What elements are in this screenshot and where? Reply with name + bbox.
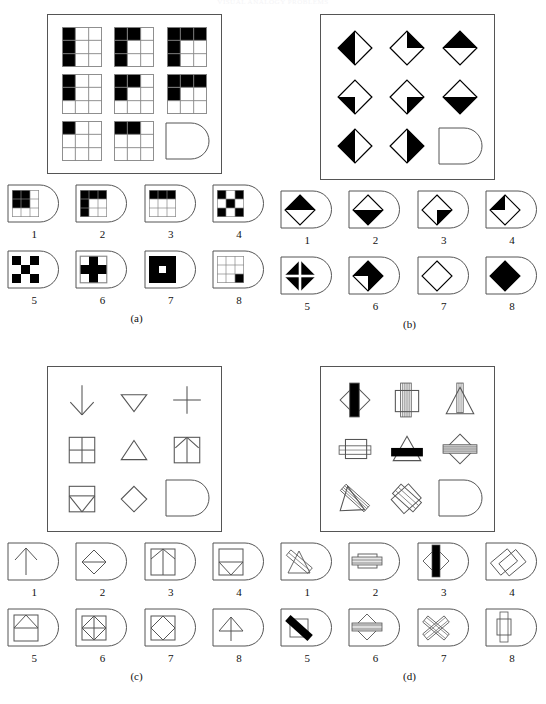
panel-c-option-6[interactable]: 6 (72, 606, 132, 664)
panel-b-label: (b) (273, 318, 546, 330)
panel-a-option-7[interactable]: 7 (141, 248, 201, 306)
panel-c-cell-r3c1 (56, 474, 108, 523)
panel-c-option-3-number: 3 (168, 586, 174, 598)
panel-a-cell-r2c2 (108, 70, 160, 117)
panel-a-options-row-2: 5 6 (0, 248, 273, 306)
panel-d-option-7[interactable]: 7 (414, 606, 474, 664)
panel-d-option-7-number: 7 (441, 652, 447, 664)
panel-a-options-row-1: 1 (0, 182, 273, 240)
panel-b: 1 2 (273, 0, 546, 352)
panel-c-option-5[interactable]: 5 (4, 606, 64, 664)
panel-c-cell-r1c2 (108, 375, 160, 424)
panel-a-option-2-number: 2 (100, 228, 106, 240)
panel-b-option-5-number: 5 (304, 300, 310, 312)
panel-c-option-1-number: 1 (31, 586, 37, 598)
panel-b-cell-r1c2 (381, 23, 433, 72)
panel-d-option-4-number: 4 (509, 586, 515, 598)
panel-a-cell-r1c3 (161, 23, 213, 70)
panel-d-cell-r1c3 (434, 375, 486, 424)
panel-b-cell-r3c3-answer-slot[interactable] (434, 122, 486, 171)
panel-a-option-5[interactable]: 5 (4, 248, 64, 306)
panel-d-label: (d) (273, 670, 546, 682)
panel-c-cell-r3c2 (108, 474, 160, 523)
panel-c-option-1[interactable]: 1 (4, 540, 64, 598)
panel-c-option-4[interactable]: 4 (209, 540, 269, 598)
panel-a-cell-r3c3-answer-slot[interactable] (161, 118, 213, 165)
panel-c-option-4-number: 4 (236, 586, 242, 598)
panel-c-cell-r2c1 (56, 424, 108, 473)
panel-d-option-3[interactable]: 3 (414, 540, 474, 598)
panel-c-options: 1 2 (0, 540, 273, 664)
panel-c-options-row-1: 1 2 (0, 540, 273, 598)
panel-a-option-1[interactable]: 1 (4, 182, 64, 240)
panel-c-option-3[interactable]: 3 (141, 540, 201, 598)
panel-d-option-1-number: 1 (304, 586, 310, 598)
panel-d-options-row-2: 5 6 (273, 606, 546, 664)
panel-b-cell-r2c2 (381, 72, 433, 121)
panel-d-option-1[interactable]: 1 (277, 540, 337, 598)
panel-d-options: 1 2 (273, 540, 546, 664)
panel-a-option-3[interactable]: 3 (141, 182, 201, 240)
panel-d-option-5-number: 5 (304, 652, 310, 664)
panel-c-cell-r3c3-answer-slot[interactable] (161, 474, 213, 523)
panel-b-option-7[interactable]: 7 (414, 254, 474, 312)
panel-a: 1 (0, 0, 273, 352)
panel-d-option-8-number: 8 (509, 652, 515, 664)
panel-d-option-8[interactable]: 8 (482, 606, 542, 664)
panel-a-cell-r1c2 (108, 23, 160, 70)
panel-d-option-6-number: 6 (373, 652, 379, 664)
panel-a-option-7-number: 7 (168, 294, 174, 306)
panel-c-option-2[interactable]: 2 (72, 540, 132, 598)
panel-c-option-8[interactable]: 8 (209, 606, 269, 664)
panel-c-matrix-box (47, 366, 222, 532)
panel-a-option-8-number: 8 (236, 294, 242, 306)
panel-b-matrix-box (320, 14, 495, 180)
panel-b-option-1-number: 1 (304, 234, 310, 246)
panel-d-cell-r2c2 (381, 424, 433, 473)
panel-a-option-3-number: 3 (168, 228, 174, 240)
panel-c-cell-r1c3 (161, 375, 213, 424)
panel-d-option-6[interactable]: 6 (345, 606, 405, 664)
panel-a-option-8[interactable]: 8 (209, 248, 269, 306)
panel-d-cell-r1c2 (381, 375, 433, 424)
panel-a-option-4[interactable]: 4 (209, 182, 269, 240)
panel-d-option-2-number: 2 (373, 586, 379, 598)
panel-b-option-4[interactable]: 4 (482, 188, 542, 246)
panel-b-option-8[interactable]: 8 (482, 254, 542, 312)
panel-b-option-6[interactable]: 6 (345, 254, 405, 312)
panel-b-cell-r1c1 (329, 23, 381, 72)
panel-a-cell-r3c2 (108, 118, 160, 165)
panel-d-options-row-1: 1 2 (273, 540, 546, 598)
panel-c-cell-r2c3 (161, 424, 213, 473)
panel-b-option-5[interactable]: 5 (277, 254, 337, 312)
panel-d-option-3-number: 3 (441, 586, 447, 598)
panel-a-cell-r2c1 (56, 70, 108, 117)
panel-c-option-7[interactable]: 7 (141, 606, 201, 664)
panel-a-option-4-number: 4 (236, 228, 242, 240)
panel-c-option-2-number: 2 (100, 586, 106, 598)
panel-a-option-6-number: 6 (100, 294, 106, 306)
panel-b-option-2[interactable]: 2 (345, 188, 405, 246)
panel-c-option-5-number: 5 (31, 652, 37, 664)
panel-d-cell-r3c3-answer-slot[interactable] (434, 474, 486, 523)
panel-c-option-8-number: 8 (236, 652, 242, 664)
panel-b-cell-r3c2 (381, 122, 433, 171)
panel-b-cell-r3c1 (329, 122, 381, 171)
panel-b-option-3[interactable]: 3 (414, 188, 474, 246)
panel-b-option-1[interactable]: 1 (277, 188, 337, 246)
panel-a-option-2[interactable]: 2 (72, 182, 132, 240)
panel-d-cell-r3c2 (381, 474, 433, 523)
panel-d-option-5[interactable]: 5 (277, 606, 337, 664)
panel-d-option-4[interactable]: 4 (482, 540, 542, 598)
panel-c-label: (c) (0, 670, 273, 682)
panel-a-option-6[interactable]: 6 (72, 248, 132, 306)
panel-d-option-2[interactable]: 2 (345, 540, 405, 598)
panel-a-cell-r3c1 (56, 118, 108, 165)
panel-a-cell-r2c3 (161, 70, 213, 117)
panel-a-option-5-number: 5 (31, 294, 37, 306)
panel-a-options: 1 (0, 182, 273, 306)
panel-b-cell-r1c3 (434, 23, 486, 72)
panel-c-cell-r1c1 (56, 375, 108, 424)
panel-c-cell-r2c2 (108, 424, 160, 473)
panel-c: 1 2 (0, 352, 273, 704)
